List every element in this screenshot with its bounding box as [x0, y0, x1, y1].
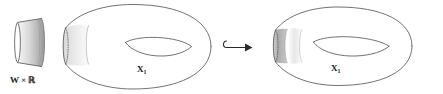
figure-canvas: W × ℝ X1	[0, 0, 443, 94]
diagram-svg: W × ℝ X1	[0, 0, 443, 94]
collar-label: W × ℝ	[10, 75, 36, 85]
collar-mouth	[15, 22, 21, 62]
collar-cylinder-group: W × ℝ	[10, 19, 45, 86]
hook-arrow-icon	[223, 41, 252, 51]
surface-after-group: X1	[273, 7, 412, 86]
hook-arrow-head	[245, 44, 253, 52]
surface-before-label-sub: 1	[144, 69, 147, 75]
surface-before-group: X1	[63, 5, 211, 90]
hook-arrow-tail	[223, 41, 246, 48]
surface-after-label-sub: 1	[338, 68, 341, 74]
